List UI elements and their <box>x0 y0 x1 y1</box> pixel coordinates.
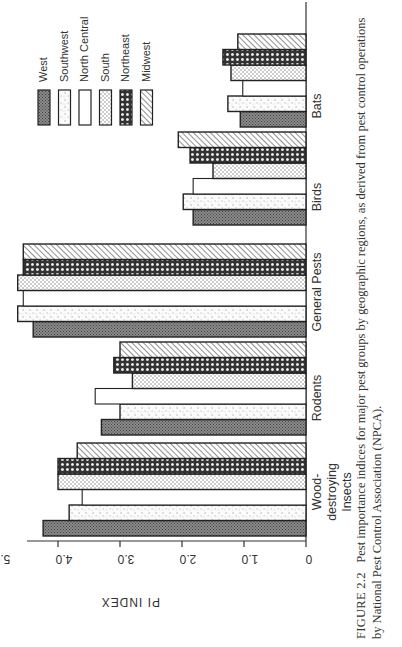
bar-south <box>58 474 306 490</box>
legend-label-south: South <box>99 53 111 82</box>
bar-west <box>240 112 306 128</box>
y-tick-1: 1.0 <box>242 552 259 566</box>
category-general-pests: General Pests <box>310 242 325 342</box>
bar-northeast <box>23 260 306 276</box>
figure-caption-text: Pest importance indices for major pest g… <box>354 18 384 639</box>
bar-northeast <box>114 358 306 374</box>
bar-south <box>132 373 306 389</box>
bar-north-central <box>23 291 306 307</box>
bar-midwest <box>238 34 306 50</box>
legend-swatch-southwest <box>59 90 71 125</box>
figure-caption: FIGURE 2.2 Pest importance indices for m… <box>353 9 385 639</box>
bar-midwest <box>77 443 306 459</box>
bar-southwest <box>120 404 306 420</box>
bar-southwest <box>183 194 306 210</box>
figure-number: FIGURE 2.2 <box>354 572 368 639</box>
bar-southwest <box>228 96 306 112</box>
bar-north-central <box>243 81 306 97</box>
legend-label-southwest: Southwest <box>58 31 70 82</box>
category-birds: Birds <box>310 167 325 227</box>
bar-west <box>193 210 306 226</box>
bar-northeast <box>58 459 306 475</box>
y-tick-3: 3.0 <box>118 552 135 566</box>
rotated-figure: PI INDEX 0 1.0 2.0 3.0 4.0 5.0 Wood-dest… <box>0 0 402 647</box>
legend-label-midwest: Midwest <box>140 42 152 82</box>
y-tick-2: 2.0 <box>180 552 197 566</box>
legend-swatch-north-central <box>79 90 91 125</box>
bar-west <box>43 521 306 537</box>
bar-southwest <box>18 306 306 322</box>
bar-northeast <box>190 148 306 164</box>
bar-north-central <box>193 179 306 195</box>
bar-northeast <box>223 50 306 66</box>
bar-north-central <box>95 389 306 405</box>
bar-south <box>213 163 306 179</box>
bar-chart <box>0 0 402 647</box>
bar-midwest <box>120 342 306 358</box>
bar-west <box>33 322 306 338</box>
category-bats: Bats <box>310 81 325 131</box>
bar-midwest <box>23 244 306 260</box>
y-tick-5: 5.0 <box>0 552 10 566</box>
legend-label-west: West <box>37 57 49 82</box>
legend-swatch-midwest <box>141 90 153 125</box>
legend-label-northeast: Northeast <box>119 34 131 82</box>
y-tick-4: 4.0 <box>56 552 73 566</box>
bar-north-central <box>82 490 306 506</box>
legend-swatch-west <box>38 90 50 125</box>
legend-swatch-northeast <box>120 90 132 125</box>
bar-south <box>231 65 306 81</box>
category-wood-destroying-insects: Wood-destroying Insects <box>310 447 355 537</box>
bar-southwest <box>69 505 306 521</box>
y-axis-label: PI INDEX <box>101 595 160 609</box>
y-tick-0: 0 <box>306 552 313 566</box>
legend <box>38 90 153 125</box>
legend-label-north-central: North Central <box>78 17 90 82</box>
category-rodents: Rodents <box>310 363 325 433</box>
bar-west <box>101 420 306 436</box>
legend-swatch-south <box>100 90 112 125</box>
bar-midwest <box>178 132 306 148</box>
bar-south <box>18 275 306 291</box>
